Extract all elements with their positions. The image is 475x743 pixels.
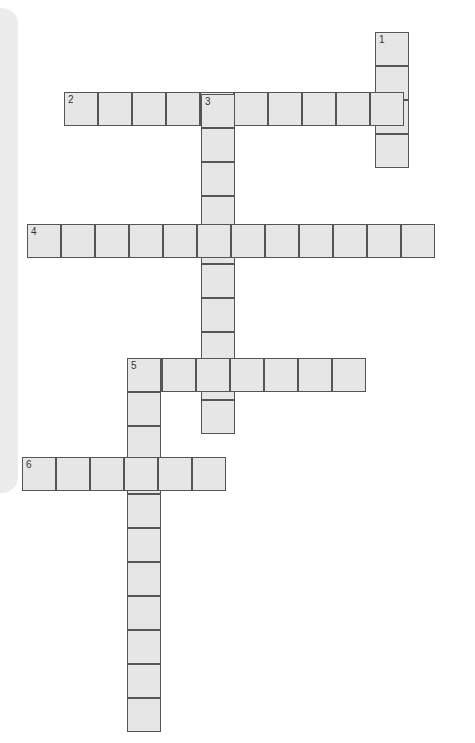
crossword-cell[interactable] — [302, 92, 336, 126]
crossword-cell[interactable]: 3 — [201, 94, 235, 128]
crossword-cell[interactable] — [127, 664, 161, 698]
crossword-cell[interactable] — [264, 358, 298, 392]
crossword-cell[interactable] — [90, 457, 124, 491]
crossword-cell[interactable] — [401, 224, 435, 258]
crossword-cell[interactable]: 4 — [27, 224, 61, 258]
crossword-cell[interactable] — [201, 162, 235, 196]
crossword-cell[interactable] — [265, 224, 299, 258]
crossword-cell[interactable] — [127, 426, 161, 460]
crossword-cell[interactable] — [127, 596, 161, 630]
crossword-cell[interactable] — [163, 224, 197, 258]
crossword-cell[interactable]: 1 — [375, 32, 409, 66]
crossword-cell[interactable] — [332, 358, 366, 392]
crossword-cell[interactable] — [98, 92, 132, 126]
clue-number: 5 — [131, 360, 137, 371]
crossword-cell[interactable]: 5 — [127, 358, 161, 392]
crossword-cell[interactable] — [192, 457, 226, 491]
crossword-cell[interactable] — [127, 698, 161, 732]
crossword-cell[interactable] — [201, 298, 235, 332]
crossword-cell[interactable] — [158, 457, 192, 491]
crossword-cell[interactable] — [132, 92, 166, 126]
crossword-cell[interactable]: 6 — [22, 457, 56, 491]
crossword-cell[interactable] — [166, 92, 200, 126]
crossword-cell[interactable] — [95, 224, 129, 258]
crossword-cell[interactable] — [127, 528, 161, 562]
crossword-cell[interactable] — [336, 92, 370, 126]
clue-number: 6 — [26, 459, 32, 470]
crossword-cell[interactable] — [196, 358, 230, 392]
crossword-cell[interactable] — [234, 92, 268, 126]
crossword-cell[interactable] — [127, 630, 161, 664]
crossword-cell[interactable] — [231, 224, 265, 258]
crossword-cell[interactable] — [162, 358, 196, 392]
crossword-cell[interactable] — [56, 457, 90, 491]
crossword-cell[interactable] — [124, 457, 158, 491]
crossword-cell[interactable] — [268, 92, 302, 126]
crossword-cell[interactable] — [370, 92, 404, 126]
clue-number: 4 — [31, 226, 37, 237]
crossword-cell[interactable] — [375, 134, 409, 168]
crossword-cell[interactable] — [129, 224, 163, 258]
crossword-cell[interactable]: 2 — [64, 92, 98, 126]
crossword-grid: 1234556 — [0, 0, 475, 743]
crossword-cell[interactable] — [201, 400, 235, 434]
clue-number: 1 — [379, 34, 385, 45]
crossword-cell[interactable] — [127, 392, 161, 426]
crossword-cell[interactable] — [197, 224, 231, 258]
crossword-cell[interactable] — [127, 494, 161, 528]
crossword-cell[interactable] — [230, 358, 264, 392]
crossword-cell[interactable] — [201, 264, 235, 298]
crossword-cell[interactable] — [201, 128, 235, 162]
crossword-cell[interactable] — [61, 224, 95, 258]
crossword-cell[interactable] — [299, 224, 333, 258]
clue-number: 3 — [205, 96, 211, 107]
clue-number: 2 — [68, 94, 74, 105]
crossword-cell[interactable] — [298, 358, 332, 392]
crossword-cell[interactable] — [127, 562, 161, 596]
crossword-cell[interactable] — [367, 224, 401, 258]
crossword-cell[interactable] — [333, 224, 367, 258]
